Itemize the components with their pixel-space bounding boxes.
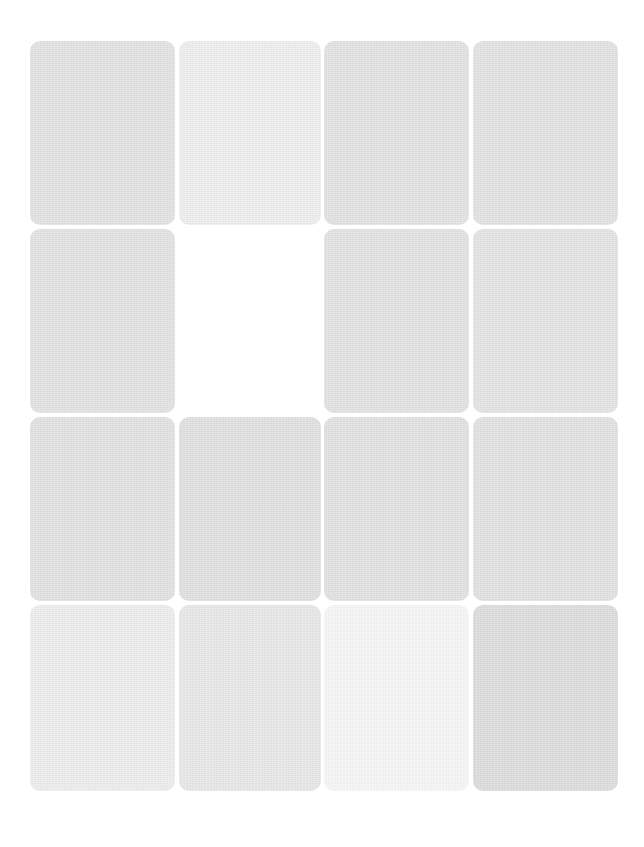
card-face-down[interactable] xyxy=(179,605,321,791)
card-face-down[interactable] xyxy=(324,417,469,601)
card-face-down[interactable] xyxy=(473,229,618,413)
card-face-down[interactable] xyxy=(179,417,321,601)
empty-card-slot xyxy=(179,229,321,413)
card-face-down[interactable] xyxy=(30,229,175,413)
card-face-down[interactable] xyxy=(179,41,321,225)
card-face-down[interactable] xyxy=(30,41,175,225)
card-face-down[interactable] xyxy=(30,417,175,601)
card-face-down[interactable] xyxy=(473,605,618,791)
game-board xyxy=(30,41,618,791)
card-face-down[interactable] xyxy=(473,417,618,601)
card-face-down[interactable] xyxy=(324,41,469,225)
card-face-down[interactable] xyxy=(324,229,469,413)
card-face-down[interactable] xyxy=(473,41,618,225)
card-face-down[interactable] xyxy=(30,605,175,791)
card-face-down[interactable] xyxy=(324,605,469,791)
